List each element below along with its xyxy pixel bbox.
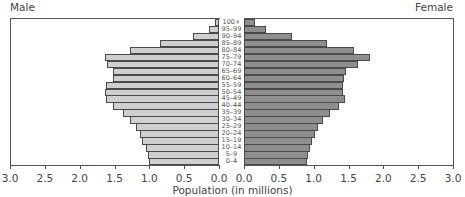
x-tick	[279, 165, 280, 169]
x-tick	[453, 165, 454, 169]
x-tick-label: 0.0	[232, 172, 256, 184]
x-tick	[244, 165, 245, 169]
x-tick	[349, 165, 350, 169]
x-tick-label: 3.0	[441, 172, 465, 184]
x-tick	[184, 165, 185, 169]
female-bar	[244, 158, 307, 165]
x-tick	[383, 165, 384, 169]
x-tick-label: 2.5	[406, 172, 430, 184]
x-tick-label: 1.5	[337, 172, 361, 184]
x-tick	[80, 165, 81, 169]
x-tick-label: 1.0	[302, 172, 326, 184]
male-label: Male	[10, 1, 35, 13]
x-tick	[115, 165, 116, 169]
x-tick	[418, 165, 419, 169]
x-tick	[45, 165, 46, 169]
x-tick-label: 2.0	[68, 172, 92, 184]
x-tick	[10, 165, 11, 169]
x-tick-label: 0.5	[267, 172, 291, 184]
x-tick-label: 2.0	[371, 172, 395, 184]
x-axis-title: Population (in millions)	[0, 184, 465, 196]
x-tick-label: 0.5	[172, 172, 196, 184]
x-tick	[149, 165, 150, 169]
x-tick	[314, 165, 315, 169]
age-group-label: 0–4	[219, 158, 244, 165]
female-label: Female	[415, 1, 453, 13]
x-tick	[219, 165, 220, 169]
x-tick-label: 1.0	[137, 172, 161, 184]
x-tick-label: 2.5	[33, 172, 57, 184]
x-tick-label: 3.0	[0, 172, 22, 184]
x-tick-label: 0.0	[207, 172, 231, 184]
x-tick-label: 1.5	[103, 172, 127, 184]
